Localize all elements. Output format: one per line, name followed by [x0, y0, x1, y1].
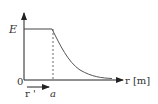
field-plot: E 0 r [m] a r ' — [0, 0, 158, 104]
x-axis-label: r [m] — [125, 75, 150, 86]
radius-label: a — [50, 88, 56, 99]
decay-curve — [52, 29, 112, 79]
origin-label: 0 — [17, 76, 23, 87]
y-axis-label: E — [8, 23, 17, 36]
position-vector-label: r ' — [25, 88, 36, 99]
